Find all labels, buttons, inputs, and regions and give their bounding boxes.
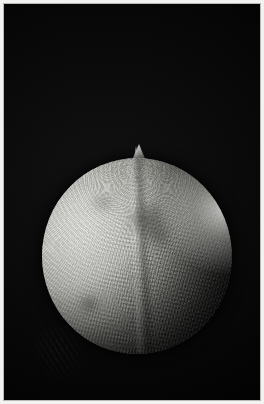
photo-frame: [0, 0, 264, 404]
spherical-specimen: [40, 144, 232, 354]
faint-lower-left-texture: [30, 322, 94, 387]
photograph-plate: [4, 4, 260, 400]
